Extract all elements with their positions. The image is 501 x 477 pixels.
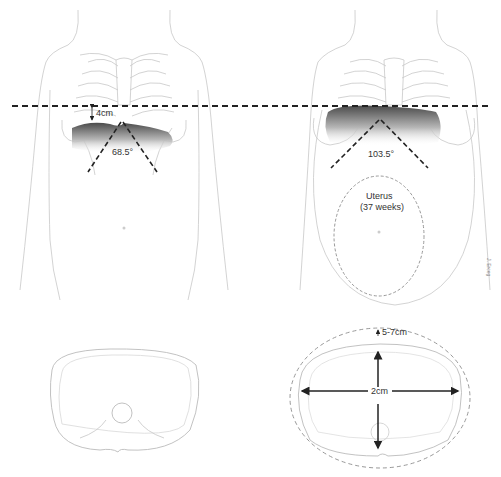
left-angle-label: 68.5° bbox=[112, 148, 133, 157]
right-diaphragm-shading bbox=[325, 106, 440, 146]
right-torso bbox=[300, 10, 490, 305]
cross-section-nonpregnant bbox=[50, 349, 199, 452]
uterus-weeks-label: (37 weeks) bbox=[360, 203, 404, 212]
diagram-canvas bbox=[0, 0, 501, 477]
right-navel bbox=[378, 231, 381, 234]
artist-signature: J. Erceg bbox=[486, 258, 492, 276]
transverse-label: 2cm bbox=[371, 387, 388, 396]
uterus-label: Uterus bbox=[366, 192, 393, 201]
circumference-label: 5-7cm bbox=[382, 328, 407, 337]
cross-section-pregnant bbox=[290, 328, 470, 468]
left-navel bbox=[123, 227, 126, 230]
distance-label: 4cm bbox=[96, 109, 113, 118]
right-angle-label: 103.5° bbox=[368, 150, 394, 159]
